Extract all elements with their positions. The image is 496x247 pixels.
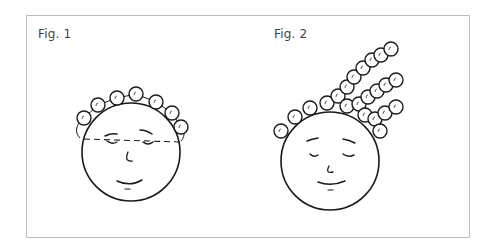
fig-1-head-with-curlers: [77, 87, 188, 201]
curler-icon: [373, 124, 387, 138]
curler-icon: [129, 87, 143, 101]
curler-icon: [389, 100, 403, 114]
curler-icon: [77, 111, 91, 125]
curler-icon: [303, 101, 317, 115]
fig-2-head-with-curlers: [274, 42, 403, 210]
diagram-drawing: [0, 0, 496, 247]
curler-icon: [174, 120, 188, 134]
curler-icon: [91, 98, 105, 112]
head-circle: [82, 103, 180, 201]
curler-icon: [149, 95, 163, 109]
curler-icon: [274, 124, 288, 138]
curler-icon: [165, 106, 179, 120]
curler-icon: [389, 73, 403, 87]
head-circle: [281, 112, 379, 210]
curler-icon: [288, 110, 302, 124]
curler-icon: [384, 42, 398, 56]
curler-icon: [110, 91, 124, 105]
